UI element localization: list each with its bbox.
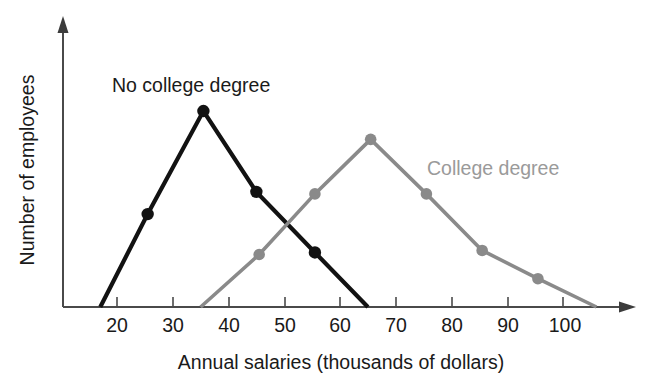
x-axis-ticks	[117, 297, 563, 307]
y-axis-title: Number of employees	[16, 74, 38, 265]
line-chart-svg: 20 30 40 50 60 70 80 90 100 No college d…	[0, 0, 657, 385]
data-point-marker	[421, 188, 433, 200]
x-axis-arrow-icon	[619, 302, 636, 313]
series-label-no-college-degree: No college degree	[112, 74, 270, 96]
x-tick-label: 30	[162, 314, 184, 336]
x-tick-label: 100	[549, 314, 582, 336]
x-tick-label: 60	[329, 314, 351, 336]
x-tick-label: 80	[441, 314, 463, 336]
data-point-marker	[197, 105, 209, 117]
data-point-marker	[309, 246, 321, 258]
x-tick-label: 50	[274, 314, 296, 336]
data-point-marker	[532, 273, 544, 285]
x-axis-title: Annual salaries (thousands of dollars)	[178, 351, 504, 373]
data-point-marker	[309, 188, 321, 200]
data-point-marker	[250, 186, 262, 198]
y-axis-arrow-icon	[58, 16, 69, 33]
data-point-marker	[476, 245, 488, 257]
x-tick-label: 20	[106, 314, 128, 336]
chart-figure: 20 30 40 50 60 70 80 90 100 No college d…	[0, 0, 657, 385]
data-point-marker	[365, 134, 377, 146]
data-point-marker	[253, 249, 265, 261]
series-label-college-degree: College degree	[427, 157, 559, 179]
x-axis-tick-labels: 20 30 40 50 60 70 80 90 100	[106, 314, 581, 336]
series-layer	[100, 105, 596, 307]
x-tick-label: 70	[385, 314, 407, 336]
x-tick-label: 90	[497, 314, 519, 336]
data-point-marker	[141, 208, 153, 220]
x-tick-label: 40	[218, 314, 240, 336]
